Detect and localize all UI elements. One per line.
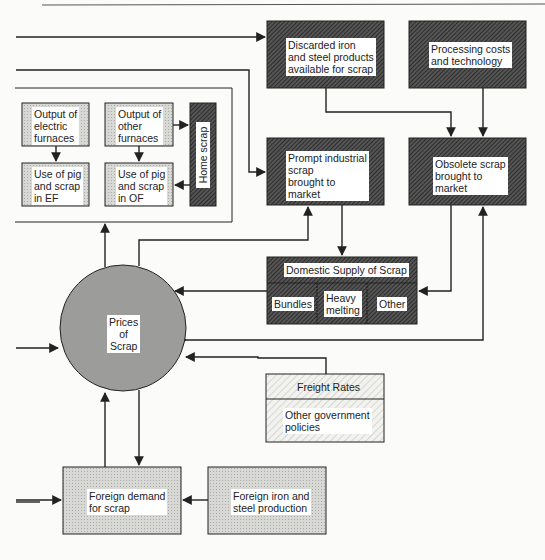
- output-of-label: Output of other furnaces: [116, 107, 163, 145]
- use-of-label: Use of pig and scrap in OF: [116, 167, 167, 205]
- output-of-line-1: Output of: [118, 108, 161, 120]
- discarded-label: Discarded iron and steel products availa…: [286, 38, 376, 76]
- foreign-demand-line-1: Foreign demand: [89, 490, 165, 502]
- processing-line-2: and technology: [431, 55, 510, 67]
- prices-line-1: Prices: [109, 316, 138, 328]
- obsolete-line-2: brought to: [435, 170, 506, 182]
- use-of-line-3: in OF: [118, 192, 165, 204]
- use-ef-label: Use of pig and scrap in EF: [32, 167, 83, 205]
- obsolete-label: Obsolete scrap brought to market: [433, 157, 508, 195]
- foreign-production-line-2: steel production: [233, 502, 309, 514]
- prompt-line-4: market: [288, 188, 367, 200]
- header-rule: [42, 4, 545, 5]
- heavy-melting-label: Heavy melting: [324, 291, 362, 317]
- heavy-melting-line-2: melting: [326, 304, 360, 316]
- diagram-canvas: [0, 0, 545, 560]
- output-ef-line-3: furnaces: [34, 132, 77, 144]
- bundles-label: Bundles: [272, 297, 314, 311]
- freight-label: Freight Rates: [295, 380, 362, 394]
- use-ef-line-1: Use of pig: [34, 168, 81, 180]
- domestic-supply-label: Domestic Supply of Scrap: [284, 263, 409, 277]
- prices-label: Prices of Scrap: [107, 315, 140, 353]
- prompt-line-1: Prompt industrial: [288, 152, 367, 164]
- obsolete-line-1: Obsolete scrap: [435, 158, 506, 170]
- foreign-demand-label: Foreign demand for scrap: [87, 489, 167, 515]
- prompt-label: Prompt industrial scrap brought to marke…: [286, 151, 369, 201]
- heavy-melting-line-1: Heavy: [326, 292, 360, 304]
- foreign-production-label: Foreign iron and steel production: [231, 489, 311, 515]
- home-scrap-label: Home scrap: [196, 122, 210, 188]
- use-ef-line-2: and scrap: [34, 180, 81, 192]
- prompt-line-3: brought to: [288, 176, 367, 188]
- output-ef-line-1: Output of: [34, 108, 77, 120]
- bundles-line-1: Bundles: [274, 298, 312, 310]
- prices-line-2: of: [109, 328, 138, 340]
- gov-line-2: policies: [285, 421, 370, 433]
- other-label: Other: [377, 297, 407, 311]
- obsolete-line-3: market: [435, 182, 506, 194]
- foreign-demand-line-2: for scrap: [89, 502, 165, 514]
- output-of-line-3: furnaces: [118, 132, 161, 144]
- use-of-line-2: and scrap: [118, 180, 165, 192]
- discarded-line-1: Discarded iron: [288, 39, 374, 51]
- gov-label: Other government policies: [283, 408, 372, 434]
- processing-line-1: Processing costs: [431, 43, 510, 55]
- foreign-production-line-1: Foreign iron and: [233, 490, 309, 502]
- gov-line-1: Other government: [285, 409, 370, 421]
- other-line-1: Other: [379, 298, 405, 310]
- output-of-line-2: other: [118, 120, 161, 132]
- prompt-line-2: scrap: [288, 164, 367, 176]
- use-of-line-1: Use of pig: [118, 168, 165, 180]
- discarded-line-2: and steel products: [288, 51, 374, 63]
- output-ef-label: Output of electric furnaces: [32, 107, 79, 145]
- prices-line-3: Scrap: [109, 340, 138, 352]
- use-ef-line-3: in EF: [34, 192, 81, 204]
- processing-label: Processing costs and technology: [429, 42, 512, 68]
- output-ef-line-2: electric: [34, 120, 77, 132]
- discarded-line-3: available for scrap: [288, 63, 374, 75]
